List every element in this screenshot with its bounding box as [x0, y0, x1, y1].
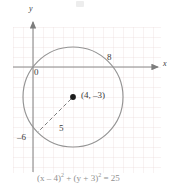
circle-equation: (x – 4)2 + (y + 3)2 = 25: [37, 172, 120, 183]
equation-part-3: = 25: [101, 173, 120, 183]
center-point-marker: [70, 94, 76, 100]
scan-artifact: [76, 1, 84, 7]
origin-label: 0: [34, 68, 39, 77]
y-tick-label-neg6: –6: [17, 133, 26, 142]
equation-part-1: (x – 4): [37, 173, 61, 183]
equation-part-2: + (y + 3): [64, 173, 98, 183]
radius-length-label: 5: [59, 124, 64, 133]
y-axis-label: y: [29, 5, 33, 13]
x-axis-label: x: [163, 60, 167, 68]
center-point-label: (4, –3): [81, 91, 105, 100]
x-tick-label-8: 8: [107, 53, 112, 62]
